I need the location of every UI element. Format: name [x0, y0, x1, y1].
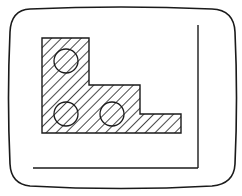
hatched-stepped-part: [42, 38, 181, 133]
diagram-canvas: [0, 0, 242, 196]
screen-diagram: [0, 0, 242, 196]
